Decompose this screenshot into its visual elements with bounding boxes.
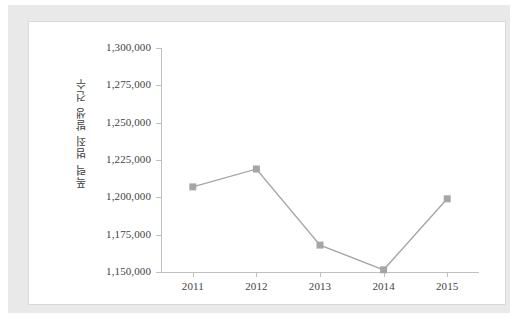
data-point-marker [253, 166, 260, 173]
data-point-marker [189, 183, 196, 190]
data-point-marker [380, 266, 387, 273]
series-line-violent-crime [193, 169, 447, 270]
figure-frame: 폭력 범죄 발생 건수 1,150,0001,175,0001,200,0001… [0, 0, 522, 323]
figure-mat-band: 폭력 범죄 발생 건수 1,150,0001,175,0001,200,0001… [8, 5, 510, 313]
chart-canvas: 폭력 범죄 발생 건수 1,150,0001,175,0001,200,0001… [28, 21, 506, 305]
data-point-marker [317, 242, 324, 249]
data-point-marker [444, 195, 451, 202]
series-markers [189, 166, 450, 274]
plot-area: 1,150,0001,175,0001,200,0001,225,0001,25… [29, 22, 507, 306]
data-series-layer [29, 22, 507, 306]
